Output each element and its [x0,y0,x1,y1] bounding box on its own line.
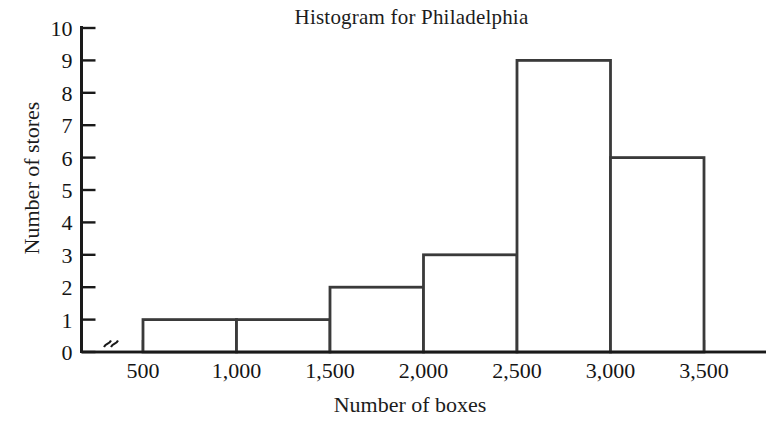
y-tick-label: 6 [62,146,73,171]
y-tick-label: 0 [62,340,73,365]
histogram-bar [611,158,705,352]
histogram-bar [237,320,331,352]
x-tick-label: 1,000 [212,358,262,383]
y-tick-label: 1 [62,308,73,333]
y-tick-labels: 012345678910 [51,16,73,365]
y-tick-label: 4 [62,210,73,235]
y-tick-label: 10 [51,16,73,41]
histogram-bar [517,60,611,352]
x-tick-label: 3,500 [679,358,729,383]
y-tick-label: 8 [62,81,73,106]
histogram-figure: Histogram for Philadelphia Number of sto… [0,0,783,432]
x-tick-label: 2,500 [492,358,542,383]
histogram-bar [330,287,424,352]
y-tick-marks [82,28,96,352]
x-tick-label: 1,500 [305,358,355,383]
x-tick-labels: 5001,0001,5002,0002,5003,0003,500 [127,358,729,383]
x-tick-label: 500 [127,358,160,383]
y-tick-label: 7 [62,113,73,138]
histogram-bar [424,255,518,352]
x-tick-label: 3,000 [586,358,636,383]
y-tick-label: 3 [62,243,73,268]
x-tick-label: 2,000 [399,358,449,383]
y-axis: 012345678910 [51,16,96,365]
axis-break-icon [104,341,118,348]
histogram-bars [143,60,704,352]
histogram-bar [143,320,237,352]
plot-area: 012345678910 5001,0001,5002,0002,5003,00… [0,0,783,432]
y-tick-label: 5 [62,178,73,203]
y-tick-label: 2 [62,275,73,300]
y-tick-label: 9 [62,48,73,73]
